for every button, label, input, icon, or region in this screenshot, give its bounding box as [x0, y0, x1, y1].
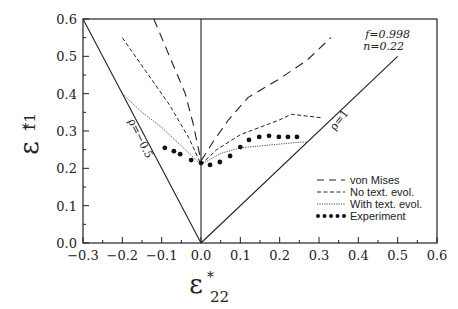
experiment-point — [217, 160, 222, 165]
x-axis-label-main: ε — [189, 269, 202, 299]
x-axis-title: ε * 22 — [189, 269, 229, 306]
x-tick-label: 0.3 — [309, 248, 330, 263]
experiment-point — [189, 158, 194, 163]
rho-neg-label: ρ=−0.5 — [125, 117, 155, 161]
x-tick-label: 0.2 — [269, 248, 290, 263]
y-tick-label: 0.6 — [56, 12, 77, 27]
x-tick-label: 0.5 — [387, 248, 408, 263]
experiment-point — [276, 135, 281, 140]
series-line — [201, 142, 307, 164]
experiment-point — [267, 133, 272, 138]
legend-swatch-experiment — [316, 214, 346, 218]
param-n: n=0.22 — [363, 40, 404, 53]
experiment-point — [238, 145, 243, 150]
experiment-point — [178, 152, 183, 157]
experiment-point — [162, 145, 167, 150]
legend-label-von-mises: von Mises — [350, 174, 400, 186]
y-axis-label-main: ε — [14, 141, 44, 154]
y-axis-label-sub: 11 — [21, 113, 39, 132]
experiment-point — [228, 154, 233, 159]
x-tick-label: 0.4 — [348, 248, 369, 263]
experiment-point — [257, 135, 262, 140]
x-tick-label: 0.0 — [191, 248, 212, 263]
experiment-point — [199, 161, 204, 166]
legend-label-no-text-evol: No text. evol. — [350, 186, 414, 198]
series-line — [201, 38, 331, 161]
x-tick-label: −0.1 — [146, 248, 178, 263]
data-series — [122, 19, 330, 167]
chart-canvas: −0.3−0.2−0.10.00.10.20.30.40.50.60.00.10… — [0, 0, 458, 309]
experiment-point — [295, 135, 300, 140]
series-line — [154, 19, 201, 161]
experiment-point — [286, 135, 291, 140]
x-axis-label-sup: * — [207, 269, 214, 285]
legend-label-with-text-evol: With text. evol. — [350, 198, 422, 210]
y-tick-label: 0.3 — [56, 124, 77, 139]
experiment-point — [247, 138, 252, 143]
y-tick-label: 0.5 — [56, 49, 77, 64]
x-tick-label: −0.2 — [107, 248, 139, 263]
experiment-point — [171, 149, 176, 154]
annotations: f=0.998 n=0.22 ρ=−0.5 ρ=1 — [125, 28, 410, 160]
y-tick-label: 0.2 — [56, 161, 77, 176]
experiment-point — [208, 163, 213, 168]
x-tick-label: 0.1 — [230, 248, 251, 263]
y-axis-title: ε * 11 — [14, 113, 44, 155]
series-line — [201, 114, 323, 164]
y-tick-label: 0.1 — [56, 199, 77, 214]
x-axis-label-sub: 22 — [210, 288, 229, 306]
x-tick-label: 0.6 — [427, 248, 448, 263]
legend: von Mises No text. evol. With text. evol… — [316, 174, 422, 222]
y-tick-label: 0.0 — [56, 236, 77, 251]
rho-pos-label: ρ=1 — [327, 107, 351, 133]
legend-label-experiment: Experiment — [350, 210, 406, 222]
y-tick-label: 0.4 — [56, 87, 77, 102]
series-line — [122, 38, 201, 165]
